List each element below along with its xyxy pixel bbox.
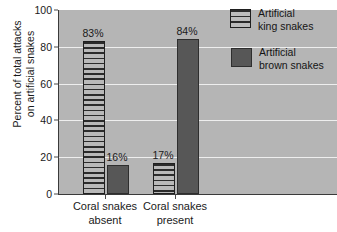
bar-brown-snakes-group-1 <box>107 165 129 194</box>
x-category-label-line-1: Coral snakes <box>143 200 207 214</box>
bar-value-label: 83% <box>82 27 103 39</box>
x-tick-mark <box>105 194 106 199</box>
x-category-label-2: Coral snakespresent <box>143 200 207 227</box>
x-category-label-line-2: absent <box>73 214 137 228</box>
legend-label-king-snakes: Artificial king snakes <box>258 7 313 32</box>
legend-swatch-striped-icon <box>230 9 251 28</box>
bar-king-snakes-group-1 <box>83 41 105 194</box>
x-category-label-line-1: Coral snakes <box>73 200 137 214</box>
legend-label-king-snakes-line-1: Artificial <box>258 7 295 19</box>
bar-value-label: 16% <box>106 151 127 163</box>
y-tick-label: 40 <box>40 114 52 126</box>
bar-value-label: 17% <box>152 149 173 161</box>
y-axis-title-line-1: Percent of total attacks <box>11 21 24 128</box>
y-tick-label: 0 <box>46 188 52 200</box>
legend-label-brown-snakes-line-1: Artificial <box>259 46 296 58</box>
legend-label-brown-snakes-line-2: brown snakes <box>259 59 324 71</box>
y-tick-label: 100 <box>34 4 52 16</box>
y-tick-label: 20 <box>40 151 52 163</box>
bar-king-snakes-group-2 <box>153 163 175 194</box>
x-category-label-line-2: present <box>143 214 207 228</box>
y-axis: 020406080100 <box>28 0 58 232</box>
y-tick-label: 60 <box>40 78 52 90</box>
legend-item-brown-snakes: Artificial brown snakes <box>231 48 324 71</box>
legend-item-king-snakes: Artificial king snakes <box>230 9 313 32</box>
bar-brown-snakes-group-2 <box>177 39 199 194</box>
legend-label-king-snakes-line-2: king snakes <box>258 20 313 32</box>
x-category-label-1: Coral snakesabsent <box>73 200 137 227</box>
x-tick-mark <box>175 194 176 199</box>
legend-swatch-solid-icon <box>231 48 252 67</box>
bar-value-label: 84% <box>176 25 197 37</box>
legend-label-brown-snakes: Artificial brown snakes <box>259 46 324 71</box>
y-tick-label: 80 <box>40 41 52 53</box>
